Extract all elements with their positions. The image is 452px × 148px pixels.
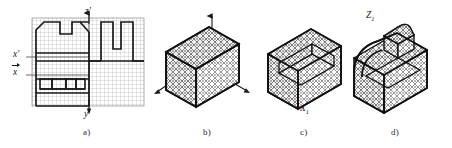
panel-d-finished-part bbox=[340, 0, 452, 148]
panel-d-drawing bbox=[340, 0, 452, 148]
axis-label-x-prime: x′ bbox=[13, 49, 19, 59]
panel-a-drawing bbox=[0, 0, 150, 148]
caption-c: c) bbox=[300, 127, 307, 137]
panel-a-orthographic-views: z′ y x′ x bbox=[0, 0, 150, 148]
caption-b: b) bbox=[203, 127, 211, 137]
figure-canvas: z′ y x′ x bbox=[0, 0, 452, 148]
axis-label-z-prime: z′ bbox=[85, 6, 91, 16]
caption-a: a) bbox=[83, 127, 90, 137]
axis-label-x-vector: x bbox=[13, 67, 17, 77]
caption-d: d) bbox=[391, 127, 399, 137]
axis-label-y: y bbox=[84, 109, 88, 119]
panel-b-isometric-block: Z1 Y1 X1 bbox=[140, 0, 255, 148]
panel-b-drawing bbox=[140, 0, 255, 148]
